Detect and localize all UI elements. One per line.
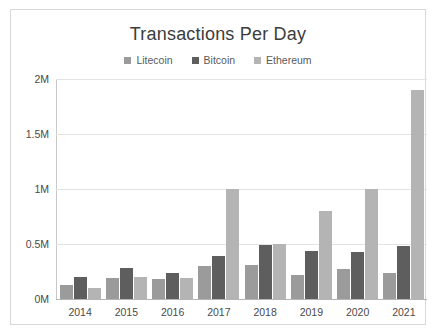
gridline [56,299,427,300]
legend-swatch-bitcoin [192,57,199,64]
legend-label-litecoin: Litecoin [136,54,172,66]
x-axis-tick-label: 2019 [288,306,334,318]
bar-bitcoin-2015[interactable] [120,268,133,299]
bar-bitcoin-2016[interactable] [166,273,179,299]
bar-ethereum-2015[interactable] [134,277,147,299]
bar-bitcoin-2018[interactable] [259,245,272,299]
bar-litecoin-2019[interactable] [291,275,304,299]
bar-ethereum-2021[interactable] [411,90,424,299]
chart-title: Transactions Per Day [11,24,425,45]
bar-ethereum-2019[interactable] [319,211,332,299]
legend-label-bitcoin: Bitcoin [204,54,236,66]
x-axis-tick-label: 2018 [242,306,288,318]
x-axis-tick-label: 2017 [196,306,242,318]
bar-litecoin-2017[interactable] [198,266,211,299]
x-axis-tick-label: 2015 [103,306,149,318]
x-axis-tick-label: 2021 [381,306,427,318]
bar-bitcoin-2020[interactable] [351,252,364,299]
x-axis-tick-label: 2016 [150,306,196,318]
bar-ethereum-2014[interactable] [88,288,101,299]
bar-group [196,79,242,299]
bar-litecoin-2016[interactable] [152,279,165,299]
y-axis-tick-label: 0.5M [26,238,49,250]
legend-swatch-ethereum [254,57,261,64]
y-axis-tick-label: 0M [34,293,49,305]
bar-bitcoin-2014[interactable] [74,277,87,299]
y-axis-tick-label: 2M [34,73,49,85]
y-axis-tick-label: 1.5M [26,128,49,140]
bar-litecoin-2018[interactable] [245,265,258,299]
y-axis-tick-label: 1M [34,183,49,195]
x-axis-ticks: 20142015201620172018201920202021 [57,306,427,318]
bar-bitcoin-2017[interactable] [212,256,225,299]
bar-litecoin-2021[interactable] [383,273,396,299]
bar-ethereum-2020[interactable] [365,189,378,299]
bar-ethereum-2016[interactable] [180,278,193,299]
legend-item-ethereum[interactable]: Ethereum [254,54,312,66]
chart-legend: Litecoin Bitcoin Ethereum [11,54,425,66]
bar-group [150,79,196,299]
bar-bitcoin-2019[interactable] [305,251,318,299]
bar-bitcoin-2021[interactable] [397,246,410,299]
bar-group [288,79,334,299]
bar-group [57,79,103,299]
legend-item-litecoin[interactable]: Litecoin [124,54,172,66]
bar-litecoin-2014[interactable] [60,285,73,299]
bar-groups [57,79,427,299]
bar-group [242,79,288,299]
legend-label-ethereum: Ethereum [266,54,312,66]
x-axis-tick-label: 2020 [335,306,381,318]
legend-item-bitcoin[interactable]: Bitcoin [192,54,236,66]
x-axis-tick-label: 2014 [57,306,103,318]
plot-area: 0M0.5M1M1.5M2M [56,70,427,304]
legend-swatch-litecoin [124,57,131,64]
bar-ethereum-2018[interactable] [273,244,286,299]
bar-group [335,79,381,299]
chart-card: Transactions Per Day Litecoin Bitcoin Et… [10,9,426,325]
bar-group [381,79,427,299]
bar-litecoin-2015[interactable] [106,278,119,299]
bar-group [103,79,149,299]
bar-ethereum-2017[interactable] [226,189,239,299]
bar-litecoin-2020[interactable] [337,269,350,299]
